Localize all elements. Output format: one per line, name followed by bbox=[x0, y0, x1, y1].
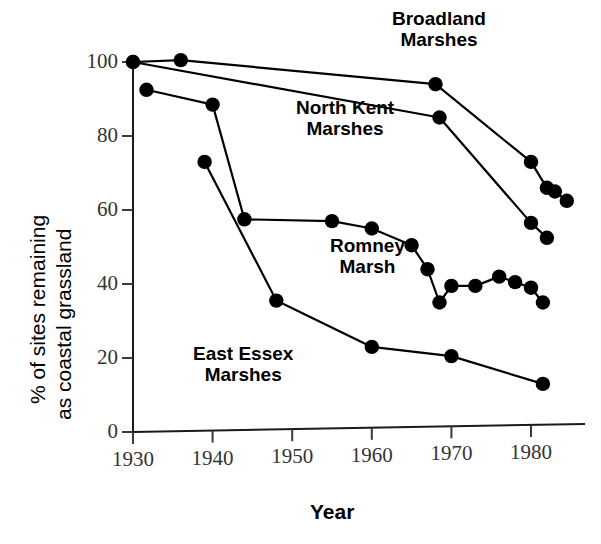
x-axis-title: Year bbox=[310, 500, 354, 524]
data-point bbox=[536, 295, 550, 309]
data-point bbox=[428, 77, 442, 91]
data-point bbox=[560, 194, 574, 208]
data-point bbox=[126, 55, 140, 69]
data-point bbox=[524, 155, 538, 169]
series-label-north-kent: North Kent Marshes bbox=[296, 97, 394, 139]
data-point bbox=[174, 53, 188, 67]
data-point bbox=[548, 184, 562, 198]
data-point bbox=[468, 279, 482, 293]
series-label-east-essex: East Essex Marshes bbox=[193, 343, 293, 385]
data-point bbox=[365, 340, 379, 354]
chart-container: 020406080100 193019401950196019701980 % … bbox=[0, 0, 601, 544]
data-point bbox=[432, 295, 446, 309]
y-axis-title-line1: % of sites remaining bbox=[26, 215, 50, 404]
series-label-romney-line1: Romney bbox=[330, 235, 405, 256]
x-tick-label: 1980 bbox=[491, 440, 571, 465]
x-tick-label: 1940 bbox=[173, 446, 253, 471]
data-point bbox=[540, 231, 554, 245]
data-point bbox=[420, 262, 434, 276]
series-label-broadland-line1: Broadland bbox=[392, 8, 486, 29]
data-point bbox=[269, 293, 283, 307]
y-axis-title-line2: as coastal grassland bbox=[52, 229, 76, 420]
series-line-1 bbox=[133, 62, 547, 238]
series-label-broadland-line2: Marshes bbox=[392, 29, 486, 50]
data-point bbox=[237, 212, 251, 226]
y-tick-label: 80 bbox=[62, 123, 118, 148]
series-label-north-kent-line1: North Kent bbox=[296, 97, 394, 118]
data-point bbox=[205, 97, 219, 111]
data-point bbox=[444, 279, 458, 293]
x-tick-label: 1960 bbox=[332, 443, 412, 468]
x-tick-label: 1970 bbox=[411, 441, 491, 466]
series-label-broadland: Broadland Marshes bbox=[392, 8, 486, 50]
series-label-north-kent-line2: Marshes bbox=[296, 118, 394, 139]
data-point bbox=[444, 349, 458, 363]
x-tick-label: 1930 bbox=[93, 447, 173, 472]
series-label-romney-line2: Marsh bbox=[330, 256, 405, 277]
data-point bbox=[197, 155, 211, 169]
y-tick-label: 100 bbox=[62, 49, 118, 74]
data-point bbox=[365, 221, 379, 235]
series-label-east-essex-line1: East Essex bbox=[193, 343, 293, 364]
data-point bbox=[139, 83, 153, 97]
data-point bbox=[325, 214, 339, 228]
series-label-east-essex-line2: Marshes bbox=[193, 364, 293, 385]
data-point bbox=[508, 275, 522, 289]
data-point bbox=[492, 269, 506, 283]
data-point bbox=[524, 281, 538, 295]
x-axis-line bbox=[133, 424, 585, 432]
data-point bbox=[404, 238, 418, 252]
x-tick-label: 1950 bbox=[252, 444, 332, 469]
data-point bbox=[524, 216, 538, 230]
data-point bbox=[432, 110, 446, 124]
y-tick-label: 0 bbox=[62, 419, 118, 444]
series-label-romney: Romney Marsh bbox=[330, 235, 405, 277]
y-tick-label: 60 bbox=[62, 197, 118, 222]
data-point bbox=[536, 377, 550, 391]
